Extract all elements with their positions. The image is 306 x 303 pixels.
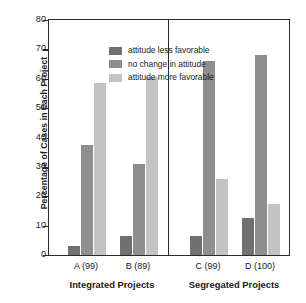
legend-swatch	[109, 74, 122, 82]
y-tick-label: 20	[36, 192, 46, 201]
x-axis-category-label: D (100)	[245, 261, 275, 271]
legend-item: attitude more favorable	[109, 72, 214, 83]
bar	[146, 77, 158, 255]
y-tick-label: 40	[36, 133, 46, 142]
bar	[190, 236, 202, 255]
bar-chart-figure: Percentage of Cases in Each Project 0102…	[0, 0, 306, 303]
bar	[216, 179, 228, 255]
panel-group-label: Segregated Projects	[189, 279, 280, 290]
x-axis-category-label: C (99)	[195, 261, 220, 271]
y-tick-label: 50	[36, 104, 46, 113]
y-tick-label: 70	[36, 45, 46, 54]
bar	[255, 55, 267, 255]
legend-item: attitude less favorable	[109, 45, 214, 56]
legend-swatch	[109, 47, 122, 55]
y-tick-label: 0	[41, 250, 46, 259]
panel-group-label: Integrated Projects	[70, 279, 155, 290]
y-tick-label: 30	[36, 162, 46, 171]
bar	[81, 145, 93, 255]
legend-label: no change in attitude	[128, 60, 206, 68]
legend-item: no change in attitude	[109, 59, 214, 70]
bar	[94, 83, 106, 255]
y-tick-label: 10	[36, 221, 46, 230]
y-tick-label: 60	[36, 74, 46, 83]
x-axis-category-label: A (99)	[74, 261, 98, 271]
legend-label: attitude more favorable	[128, 73, 214, 81]
bar	[203, 61, 215, 255]
x-axis-category-label: B (89)	[126, 261, 151, 271]
bar	[68, 246, 80, 255]
y-tick-label: 80	[36, 15, 46, 24]
bar	[268, 204, 280, 255]
bar	[242, 218, 254, 255]
plot-area: 01020304050607080 attitude less favorabl…	[48, 19, 290, 256]
chart-legend: attitude less favorableno change in atti…	[109, 45, 214, 86]
legend-label: attitude less favorable	[128, 46, 209, 54]
legend-swatch	[109, 60, 122, 68]
bar	[120, 236, 132, 255]
bar	[133, 164, 145, 255]
